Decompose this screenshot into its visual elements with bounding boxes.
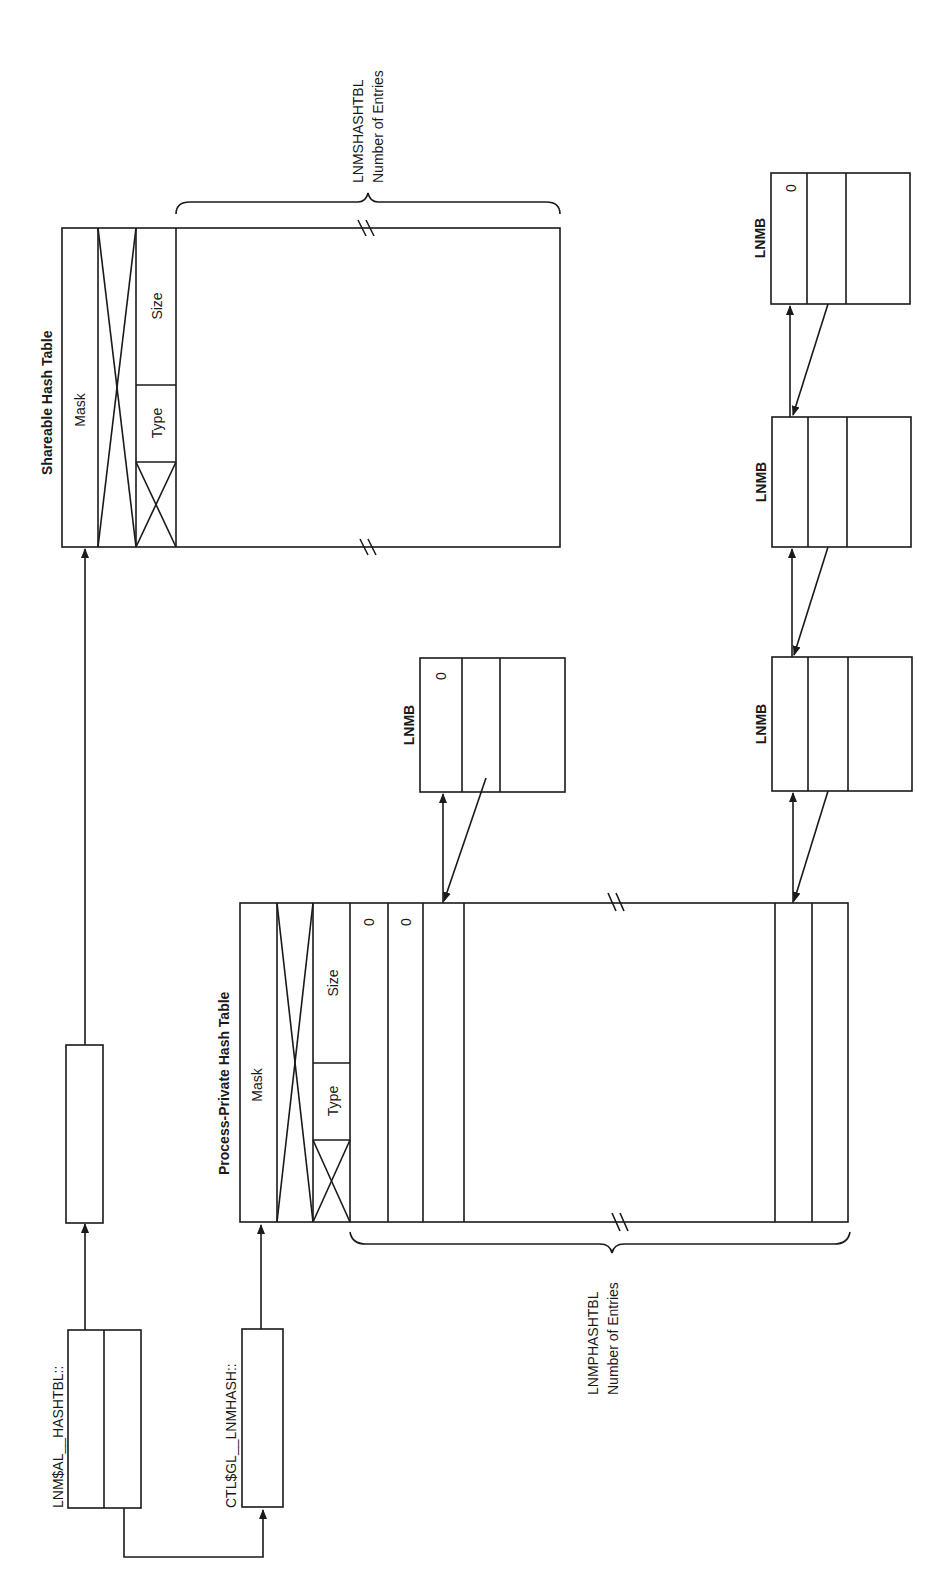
slot-value: 0: [361, 918, 377, 926]
lnmb-block: LNMB: [753, 657, 912, 791]
backward-link-arrow: [444, 778, 486, 901]
ctl-gl-lnmhash-pointer: CTL$GL__LNMHASH::: [223, 1329, 283, 1508]
lnmb-block: LNMB: [753, 417, 911, 547]
connector-line: [124, 1508, 263, 1557]
process-entries-label: Number of Entries: [605, 1282, 621, 1395]
process-entries-label: LNMPHASHTBL: [585, 1291, 601, 1395]
shareable-type-label: Type: [149, 408, 165, 439]
process-type-label: Type: [325, 1086, 341, 1117]
lnmb-label: LNMB: [753, 704, 769, 744]
shareable-table-title: Shareable Hash Table: [39, 330, 55, 475]
shareable-mask-label: Mask: [72, 392, 88, 426]
lnm-al-hashtbl-label: LNM$AL__HASHTBL::: [50, 1366, 66, 1508]
lnmb-value: 0: [783, 184, 799, 192]
backward-link-arrow: [794, 791, 828, 901]
backward-link-arrow: [794, 547, 828, 655]
listhead-box: [66, 1045, 103, 1223]
shareable-entries-label: Number of Entries: [370, 70, 386, 183]
shareable-hash-table: Shareable Hash Table Mask Size Type LNMS…: [39, 70, 560, 555]
lnmb-value: 0: [433, 672, 449, 680]
lnmb-label: LNMB: [753, 462, 769, 502]
shareable-entries-label: LNMSHASHTBL: [350, 79, 366, 183]
process-private-hash-table: Process-Private Hash Table Mask Size Typ…: [216, 893, 850, 1395]
lnm-al-hashtbl-pointer: LNM$AL__HASHTBL::: [50, 1330, 141, 1508]
lnmb-block: LNMB 0: [752, 173, 910, 304]
entries-brace: [350, 1232, 850, 1253]
entries-brace: [176, 193, 560, 214]
backward-link-arrow: [793, 304, 828, 415]
lnmb-label: LNMB: [401, 705, 417, 745]
logical-name-hash-table-diagram: LNM$AL__HASHTBL:: CTL$GL__LNMHASH:: Shar…: [0, 0, 932, 1570]
ctl-gl-lnmhash-label: CTL$GL__LNMHASH::: [223, 1363, 239, 1508]
shareable-size-label: Size: [149, 292, 165, 319]
lnmb-block: LNMB 0: [401, 658, 565, 792]
lnmb-label: LNMB: [752, 218, 768, 258]
slot-value: 0: [398, 918, 414, 926]
process-size-label: Size: [325, 969, 341, 996]
process-mask-label: Mask: [249, 1067, 265, 1101]
process-table-title: Process-Private Hash Table: [216, 991, 232, 1175]
